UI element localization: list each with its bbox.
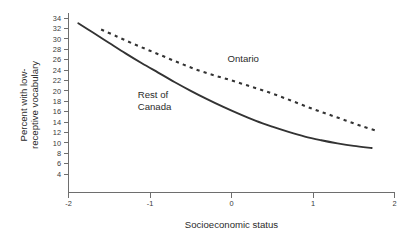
y-tick-label: 4	[57, 170, 61, 179]
series-line-ontario	[101, 29, 378, 131]
y-axis-title-line2: receptive vocabulary	[29, 61, 40, 149]
y-tick-label: 8	[57, 149, 61, 158]
series-label-rest-of-canada-line2: Canada	[138, 101, 172, 112]
x-axis-title: Socioeconomic status	[185, 219, 279, 230]
x-axis-group: -2-1012	[65, 193, 396, 208]
y-tick-label: 26	[53, 55, 61, 64]
y-tick-label: 20	[53, 87, 61, 96]
y-axis-ticks	[64, 18, 69, 174]
y-axis-tick-labels: 46810121416182022242628303234	[53, 14, 61, 179]
x-tick-label: 0	[229, 199, 233, 208]
x-tick-label: -2	[65, 199, 72, 208]
chart-plot-area: 46810121416182022242628303234 -2-1012 On…	[0, 0, 413, 248]
y-tick-label: 18	[53, 97, 61, 106]
x-axis-tick-labels: -2-1012	[65, 199, 396, 208]
chart-container: 46810121416182022242628303234 -2-1012 On…	[0, 0, 413, 248]
series-line-rest-of-canada	[78, 23, 371, 148]
series-label-ontario: Ontario	[227, 53, 258, 64]
series-group	[78, 23, 378, 148]
y-tick-label: 30	[53, 35, 61, 44]
series-label-rest-of-canada-line1: Rest of	[138, 89, 169, 100]
y-tick-label: 12	[53, 128, 61, 137]
y-axis-title-line1: Percent with low-	[18, 68, 29, 141]
y-tick-label: 32	[53, 24, 61, 33]
x-tick-label: -1	[147, 199, 154, 208]
y-tick-label: 28	[53, 45, 61, 54]
y-tick-label: 24	[53, 66, 61, 75]
y-tick-label: 14	[53, 118, 61, 127]
x-tick-label: 2	[392, 199, 396, 208]
y-tick-label: 34	[53, 14, 61, 23]
y-axis-group: 46810121416182022242628303234	[53, 13, 69, 193]
x-axis-ticks	[69, 193, 395, 198]
y-tick-label: 10	[53, 139, 61, 148]
y-tick-label: 6	[57, 159, 61, 168]
y-tick-label: 22	[53, 76, 61, 85]
y-tick-label: 16	[53, 107, 61, 116]
x-tick-label: 1	[311, 199, 315, 208]
